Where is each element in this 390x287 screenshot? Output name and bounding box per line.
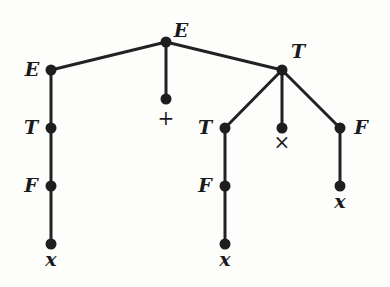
tree-node-dot (220, 123, 231, 134)
tree-node-label: + (158, 106, 175, 130)
tree-edge (225, 70, 282, 128)
tree-node-label: F (197, 174, 213, 196)
tree-edge (166, 42, 282, 70)
tree-node-dot (277, 65, 288, 76)
tree-node-label: T (198, 116, 214, 138)
tree-node-label: E (173, 19, 189, 41)
tree-node-dot (161, 37, 172, 48)
tree-node-dot (335, 123, 346, 134)
tree-node-dot (46, 181, 57, 192)
tree-node-label: × (274, 130, 291, 154)
tree-node-label: T (24, 116, 40, 138)
tree-nodes (46, 37, 346, 250)
tree-node-dot (46, 65, 57, 76)
tree-node-label: F (353, 116, 369, 138)
tree-node-label: x (218, 248, 231, 270)
tree-node-label: x (44, 248, 57, 270)
tree-node-dot (161, 94, 172, 105)
tree-edges (51, 42, 340, 244)
tree-labels: EE+TTFxT×FFxx (23, 19, 369, 270)
parse-tree-canvas: EE+TTFxT×FFxx (0, 0, 390, 287)
tree-edge (51, 42, 166, 70)
tree-node-dot (220, 181, 231, 192)
parse-tree-diagram: EE+TTFxT×FFxx (0, 0, 390, 287)
tree-node-label: E (24, 58, 40, 80)
tree-node-label: x (333, 190, 346, 212)
tree-node-label: T (291, 40, 307, 62)
tree-edge (282, 70, 340, 128)
tree-node-label: F (23, 174, 39, 196)
tree-node-dot (46, 123, 57, 134)
